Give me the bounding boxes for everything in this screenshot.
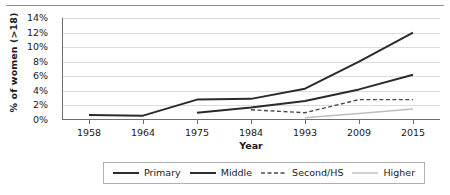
series-line-middle — [197, 75, 413, 113]
x-axis-tick-label: 1984 — [221, 128, 281, 138]
x-axis-tick-label: 1964 — [113, 128, 173, 138]
x-axis-tick-label: 1958 — [59, 128, 119, 138]
x-axis-tick — [251, 120, 252, 124]
legend-label: Middle — [221, 168, 252, 178]
x-axis-title: Year — [62, 140, 440, 151]
series-line-primary — [89, 33, 413, 116]
plot-area: 0%2%4%6%8%10%12%14% 19581964197519841993… — [62, 18, 440, 120]
y-axis-tick-label: 14% — [12, 13, 48, 23]
x-axis-tick-label: 2015 — [383, 128, 443, 138]
y-axis-tick-label: 10% — [12, 42, 48, 52]
chart-figure: % of women (>18) 0%2%4%6%8%10%12%14% 195… — [0, 0, 450, 195]
legend-label: Higher — [383, 168, 415, 178]
legend-label: Second/HS — [292, 168, 343, 178]
legend-item-higher[interactable]: Higher — [352, 168, 415, 178]
legend-swatch-icon — [190, 169, 216, 177]
x-axis-tick — [197, 120, 198, 124]
y-axis-tick-label: 2% — [12, 100, 48, 110]
y-axis-tick-label: 0% — [12, 115, 48, 125]
legend-item-middle[interactable]: Middle — [190, 168, 252, 178]
x-axis-tick — [413, 120, 414, 124]
chart-legend: PrimaryMiddleSecond/HSHigher — [103, 162, 425, 184]
x-axis-tick-label: 1993 — [275, 128, 335, 138]
legend-item-primary[interactable]: Primary — [113, 168, 181, 178]
x-axis-tick — [143, 120, 144, 124]
y-axis-tick-label: 8% — [12, 57, 48, 67]
y-axis-tick-label: 6% — [12, 71, 48, 81]
y-axis-tick-label: 4% — [12, 86, 48, 96]
top-divider — [6, 5, 444, 6]
x-axis-tick-label: 2009 — [329, 128, 389, 138]
series-line-higher — [305, 109, 413, 118]
legend-swatch-icon — [352, 169, 378, 177]
y-axis-tick-label: 12% — [12, 28, 48, 38]
x-axis-tick — [305, 120, 306, 124]
series-lines — [62, 18, 440, 120]
x-axis-tick — [359, 120, 360, 124]
x-axis-tick-label: 1975 — [167, 128, 227, 138]
x-axis-tick — [89, 120, 90, 124]
legend-swatch-icon — [113, 169, 139, 177]
legend-item-second-hs[interactable]: Second/HS — [261, 168, 343, 178]
legend-label: Primary — [144, 168, 181, 178]
legend-swatch-icon — [261, 169, 287, 177]
